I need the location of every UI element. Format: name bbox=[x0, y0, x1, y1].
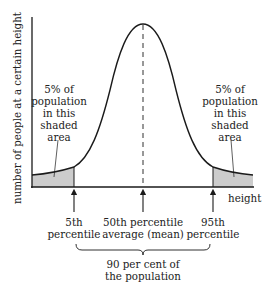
right-tail-label: 5% of population in this shaded area bbox=[202, 83, 258, 143]
svg-text:in this: in this bbox=[43, 107, 76, 119]
svg-text:population: population bbox=[202, 95, 258, 107]
svg-text:the population: the population bbox=[105, 270, 181, 282]
svg-text:5% of: 5% of bbox=[215, 83, 246, 95]
svg-text:population: population bbox=[31, 95, 87, 107]
svg-text:90 per cent of: 90 per cent of bbox=[106, 258, 180, 270]
x-axis-label: height bbox=[228, 192, 262, 204]
right-tail-shade bbox=[213, 167, 253, 187]
svg-text:50th percentile: 50th percentile bbox=[103, 216, 183, 228]
normal-distribution-diagram: number of people at a certain height 5% … bbox=[0, 0, 270, 288]
y-axis-label: number of people at a certain height bbox=[11, 11, 23, 204]
svg-text:area: area bbox=[218, 131, 241, 143]
svg-text:shaded: shaded bbox=[211, 119, 249, 131]
svg-text:in this: in this bbox=[214, 107, 247, 119]
svg-text:shaded: shaded bbox=[40, 119, 78, 131]
svg-text:95th: 95th bbox=[201, 216, 225, 228]
svg-text:percentile: percentile bbox=[48, 228, 101, 240]
population-brace bbox=[76, 244, 210, 255]
svg-text:5% of: 5% of bbox=[44, 83, 75, 95]
svg-text:5th: 5th bbox=[65, 216, 83, 228]
p50-label: 50th percentile average (mean) bbox=[102, 216, 184, 240]
svg-text:area: area bbox=[47, 131, 70, 143]
left-tail-label: 5% of population in this shaded area bbox=[31, 83, 87, 143]
left-tail-shade bbox=[32, 167, 74, 187]
svg-text:percentile: percentile bbox=[187, 228, 240, 240]
p95-label: 95th percentile bbox=[187, 216, 240, 240]
svg-text:average (mean): average (mean) bbox=[102, 228, 184, 240]
p5-label: 5th percentile bbox=[48, 216, 101, 240]
brace-label: 90 per cent of the population bbox=[105, 258, 181, 282]
